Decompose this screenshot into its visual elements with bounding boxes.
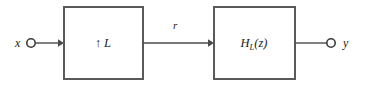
- filter-block-label: HL(z): [240, 36, 268, 52]
- output-terminal-circle-icon: [327, 39, 335, 47]
- input-signal-label: x: [14, 36, 21, 50]
- filter-suffix-label: (z): [254, 36, 267, 50]
- upsampler-factor-label: L: [103, 36, 111, 50]
- intermediate-signal-label: r: [173, 19, 178, 31]
- output-signal-label: y: [342, 36, 349, 50]
- up-arrow-icon: ↑: [95, 36, 101, 50]
- block-diagram-figure: x ↑L r HL(z) y: [0, 0, 365, 89]
- input-terminal-circle-icon: [27, 39, 35, 47]
- diagram-canvas: x ↑L r HL(z) y: [0, 0, 365, 89]
